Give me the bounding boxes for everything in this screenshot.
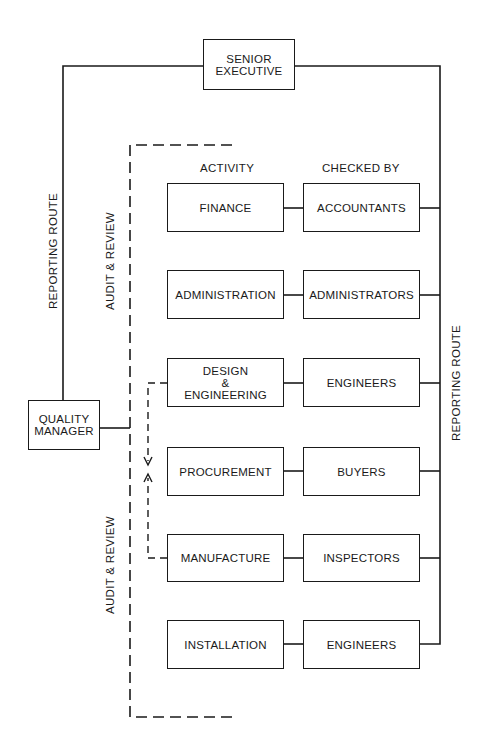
left-reporting-route-label: REPORTING ROUTE bbox=[47, 193, 59, 309]
checker-box-administrators: ADMINISTRATORS bbox=[303, 270, 420, 319]
senior-executive-box: SENIOR EXECUTIVE bbox=[203, 39, 295, 90]
checker-box-installation-engineers: ENGINEERS bbox=[303, 620, 420, 669]
feedback-loop bbox=[144, 383, 167, 558]
activity-column-header: ACTIVITY bbox=[200, 162, 254, 174]
lower-audit-review-label: AUDIT & REVIEW bbox=[104, 516, 116, 614]
quality-organisation-diagram: SENIOR EXECUTIVE QUALITY MANAGER ACTIVIT… bbox=[0, 0, 481, 748]
checker-box-engineers: ENGINEERS bbox=[303, 358, 420, 407]
quality-manager-box: QUALITY MANAGER bbox=[28, 400, 100, 450]
checked-by-column-header: CHECKED BY bbox=[322, 162, 400, 174]
activity-box-manufacture: MANUFACTURE bbox=[167, 534, 284, 582]
activity-box-installation: INSTALLATION bbox=[167, 620, 284, 669]
right-reporting-route-label: REPORTING ROUTE bbox=[450, 325, 462, 441]
activity-box-procurement: PROCUREMENT bbox=[167, 447, 284, 496]
checker-box-inspectors: INSPECTORS bbox=[303, 534, 420, 582]
left-reporting-line bbox=[63, 66, 203, 400]
checker-box-buyers: BUYERS bbox=[303, 447, 420, 496]
activity-box-design-engineering: DESIGN & ENGINEERING bbox=[167, 358, 284, 407]
activity-box-administration: ADMINISTRATION bbox=[167, 270, 284, 319]
activity-box-finance: FINANCE bbox=[167, 183, 284, 232]
checker-box-accountants: ACCOUNTANTS bbox=[303, 183, 420, 232]
upper-audit-review-label: AUDIT & REVIEW bbox=[104, 212, 116, 310]
